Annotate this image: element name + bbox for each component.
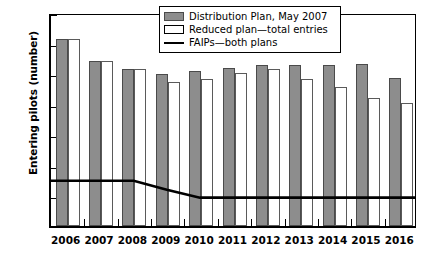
bar-distribution-plan xyxy=(389,78,401,226)
x-axis-tick-label: 2009 xyxy=(151,234,180,246)
bar-reduced-plan xyxy=(368,98,380,226)
x-axis-tick-mark xyxy=(151,219,152,226)
legend-item: Distribution Plan, May 2007 xyxy=(164,10,336,23)
x-axis-tick-mark xyxy=(351,219,352,226)
x-axis-tick-mark xyxy=(184,219,185,226)
x-axis-tick-label: 2015 xyxy=(351,234,380,246)
bar-distribution-plan xyxy=(289,65,301,226)
bar-distribution-plan xyxy=(189,71,201,226)
bar-distribution-plan xyxy=(256,65,268,226)
legend-item-label: FAIPs—both plans xyxy=(189,37,277,49)
bar-reduced-plan xyxy=(101,61,113,226)
bar-distribution-plan xyxy=(323,65,335,226)
x-axis-tick-mark xyxy=(251,219,252,226)
x-axis-tick-label: 2014 xyxy=(318,234,347,246)
x-axis-tick-label: 2008 xyxy=(118,234,147,246)
legend-swatch-faips-line xyxy=(164,42,184,44)
x-axis-tick-label: 2016 xyxy=(385,234,414,246)
bar-reduced-plan xyxy=(68,39,80,226)
x-axis-tick-mark xyxy=(118,219,119,226)
y-axis-title: Entering pilots (number) xyxy=(27,8,39,198)
chart-container: Entering pilots (number) 050100150200250… xyxy=(0,0,434,256)
x-axis-tick-label: 2012 xyxy=(251,234,280,246)
legend-swatch-reduced-plan xyxy=(164,25,184,34)
bar-distribution-plan xyxy=(89,61,101,226)
bar-distribution-plan xyxy=(122,69,134,226)
legend-item: Reduced plan—total entries xyxy=(164,23,336,36)
bar-distribution-plan xyxy=(156,74,168,226)
legend-swatch-distribution-plan xyxy=(164,12,184,21)
bar-reduced-plan xyxy=(168,82,180,226)
chart-legend: Distribution Plan, May 2007Reduced plan—… xyxy=(159,6,341,53)
legend-item-label: Distribution Plan, May 2007 xyxy=(189,11,327,23)
bar-distribution-plan xyxy=(56,39,68,226)
legend-item-label: Reduced plan—total entries xyxy=(189,24,328,36)
bar-reduced-plan xyxy=(401,103,413,227)
x-axis-tick-label: 2007 xyxy=(84,234,113,246)
bar-reduced-plan xyxy=(268,69,280,226)
bar-reduced-plan xyxy=(201,79,213,226)
bar-distribution-plan xyxy=(356,64,368,226)
x-axis-tick-label: 2011 xyxy=(218,234,247,246)
bar-reduced-plan xyxy=(134,69,146,226)
x-axis-tick-mark xyxy=(385,219,386,226)
bar-reduced-plan xyxy=(335,87,347,226)
legend-item: FAIPs—both plans xyxy=(164,36,336,49)
x-axis-tick-label: 2006 xyxy=(51,234,80,246)
x-axis-tick-label: 2013 xyxy=(285,234,314,246)
y-axis-tick-mark xyxy=(51,15,57,16)
x-axis-tick-mark xyxy=(318,219,319,226)
x-axis-tick-mark xyxy=(84,219,85,226)
bar-reduced-plan xyxy=(235,73,247,226)
bar-distribution-plan xyxy=(223,68,235,226)
x-axis-tick-label: 2010 xyxy=(185,234,214,246)
x-axis-tick-mark xyxy=(285,219,286,226)
bar-reduced-plan xyxy=(301,79,313,226)
x-axis-tick-mark xyxy=(218,219,219,226)
